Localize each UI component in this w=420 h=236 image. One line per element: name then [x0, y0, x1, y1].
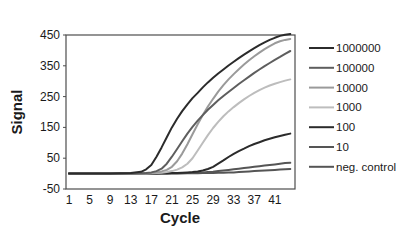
x-axis-ticks: 1591317212529333741	[66, 193, 282, 207]
x-tick-label: 5	[86, 193, 93, 207]
legend-label: 10000	[336, 82, 368, 94]
y-tick-label: 350	[40, 59, 60, 73]
legend-label: 100000	[336, 62, 374, 74]
x-tick-label: 25	[186, 193, 200, 207]
y-tick-label: 150	[40, 120, 60, 134]
x-tick-label: 29	[206, 193, 220, 207]
legend-label: 1000000	[336, 42, 381, 54]
legend-label: 100	[336, 121, 355, 133]
x-tick-label: 9	[107, 193, 114, 207]
legend-item: 1000000	[309, 42, 381, 54]
y-tick-label: 450	[40, 28, 60, 42]
y-axis-title: Signal	[8, 89, 25, 134]
legend-item: 100000	[309, 62, 374, 74]
legend-item: 1000	[309, 101, 362, 113]
legend-item: 10000	[309, 82, 368, 94]
x-tick-label: 21	[165, 193, 179, 207]
y-tick-label: 250	[40, 90, 60, 104]
x-tick-label: 41	[268, 193, 282, 207]
y-tick-label: -50	[43, 182, 61, 196]
x-tick-label: 1	[66, 193, 73, 207]
legend-item: 10	[309, 141, 349, 153]
legend-label: neg. control	[336, 161, 396, 173]
x-tick-label: 17	[145, 193, 159, 207]
legend-item: neg. control	[309, 161, 396, 173]
y-axis-ticks: -5050150250350450	[40, 28, 66, 196]
x-axis-title: Cycle	[160, 209, 200, 226]
x-tick-label: 33	[227, 193, 241, 207]
x-tick-label: 37	[248, 193, 262, 207]
x-tick-label: 13	[124, 193, 138, 207]
legend-label: 1000	[336, 101, 362, 113]
legend: 100000010000010000100010010neg. control	[309, 42, 396, 173]
chart: -5050150250350450 1591317212529333741 Si…	[0, 0, 420, 236]
y-tick-label: 50	[47, 151, 61, 165]
legend-item: 100	[309, 121, 355, 133]
legend-label: 10	[336, 141, 349, 153]
